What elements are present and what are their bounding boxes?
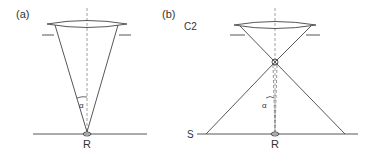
angle-arc <box>77 97 87 98</box>
cone-left-ray <box>55 25 87 132</box>
converge-right-ray <box>275 26 311 62</box>
diverge-right-ray <box>275 62 345 134</box>
diagram-canvas: (a) α R (b) C2 <box>0 0 372 152</box>
angle-label: α <box>262 101 267 110</box>
spot-label: R <box>271 138 279 150</box>
panel-b-label: (b) <box>162 8 175 20</box>
lens-c2-label: C2 <box>184 21 197 32</box>
panel-a-label: (a) <box>16 8 29 20</box>
diverge-left-ray <box>206 62 275 134</box>
panel-b: (b) C2 α S R <box>162 8 358 150</box>
angle-label: α <box>79 101 84 110</box>
converge-left-ray <box>240 26 275 62</box>
plane-s-label: S <box>187 129 194 140</box>
panel-a: (a) α R <box>16 8 147 150</box>
cone-right-ray <box>87 25 118 132</box>
angle-arc <box>266 97 274 99</box>
spot-label: R <box>83 138 91 150</box>
